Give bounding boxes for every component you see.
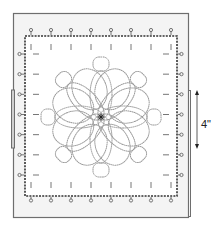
motif-center-dot: [100, 116, 103, 119]
dimension-arrow-head-up: [195, 90, 199, 95]
right-side-extension: [189, 91, 191, 217]
dimension-label: 4": [201, 118, 211, 130]
left-side-tab: [12, 90, 15, 148]
dimension-arrow: [195, 90, 199, 149]
quilt-diagram: [0, 0, 220, 225]
dimension-arrow-head-down: [195, 144, 199, 149]
